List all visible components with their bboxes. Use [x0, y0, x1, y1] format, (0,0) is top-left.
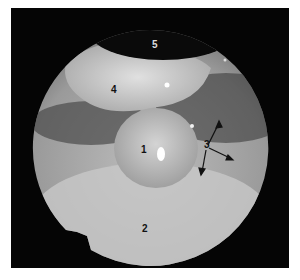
label-3: 3: [204, 140, 210, 150]
label-4: 4: [111, 85, 117, 95]
endoscopic-image-frame: 5 4 1 3 2: [11, 8, 289, 268]
label-2: 2: [142, 224, 148, 234]
endoscopic-field: [11, 8, 289, 268]
label-5: 5: [152, 40, 158, 50]
label-1: 1: [141, 145, 147, 155]
